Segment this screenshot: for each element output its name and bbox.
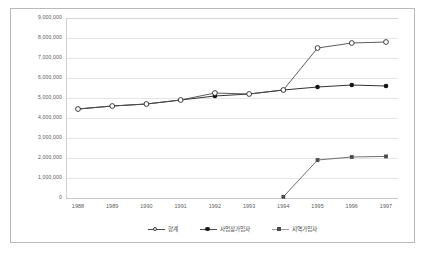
chart-screenshot: 01,000,0002,000,0003,000,0004,000,0005,0…: [0, 0, 428, 253]
gridline: [66, 78, 398, 79]
y-axis-tick-label: 9,000,000: [8, 15, 62, 20]
chart-legend: 합계 사업장가입자 지역가입자: [66, 223, 398, 235]
y-axis-tick-label: 4,000,000: [8, 115, 62, 120]
legend-label-total: 합계: [168, 226, 178, 232]
legend-label-workplace: 사업장가입자: [220, 226, 250, 232]
y-axis-tick-label: 3,000,000: [8, 135, 62, 140]
y-axis-tick-label: 8,000,000: [8, 35, 62, 40]
legend-item-regional[interactable]: 지역가입자: [272, 225, 317, 233]
gridline: [66, 98, 398, 99]
gridline: [66, 118, 398, 119]
filled-circle-marker-icon: [200, 225, 217, 233]
x-axis-line: [66, 198, 398, 199]
y-axis-tick-label: 1,000,000: [8, 175, 62, 180]
plot-top-border: [66, 18, 398, 19]
gridline: [66, 158, 398, 159]
gridline: [66, 38, 398, 39]
y-axis-tick-label: 0: [8, 195, 62, 200]
y-axis-tick-label: 6,000,000: [8, 75, 62, 80]
gridline: [66, 138, 398, 139]
gridline: [66, 58, 398, 59]
legend-item-workplace[interactable]: 사업장가입자: [200, 225, 250, 233]
y-axis-line: [66, 18, 67, 199]
x-axis-tick-label: 1997: [366, 203, 406, 209]
legend-item-total[interactable]: 합계: [148, 225, 178, 233]
y-axis-tick-label: 5,000,000: [8, 95, 62, 100]
y-axis-tick-label: 7,000,000: [8, 55, 62, 60]
y-axis-tick-label: 2,000,000: [8, 155, 62, 160]
legend-label-regional: 지역가입자: [292, 226, 317, 232]
filled-square-marker-icon: [272, 225, 289, 233]
open-circle-marker-icon: [148, 225, 165, 233]
gridline: [66, 178, 398, 179]
